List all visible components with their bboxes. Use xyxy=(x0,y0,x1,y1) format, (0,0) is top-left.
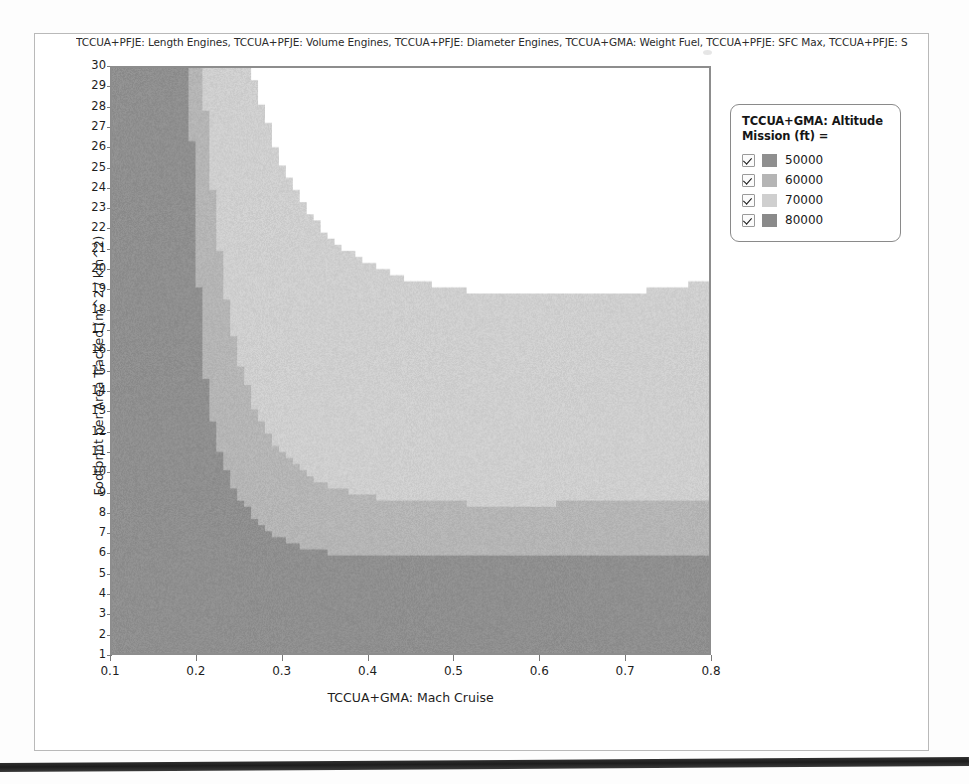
x-tick-mark xyxy=(196,655,197,661)
y-tick-label: 3 xyxy=(66,609,106,621)
legend-color-swatch xyxy=(762,174,777,187)
legend-panel[interactable]: TCCUA+GMA: Altitude Mission (ft) = 50000… xyxy=(730,104,901,242)
y-tick-label: 12 xyxy=(66,426,106,438)
y-tick-label: 11 xyxy=(66,446,106,458)
x-tick-mark xyxy=(711,655,712,661)
y-tick-label: 10 xyxy=(66,466,106,478)
y-tick-label: 25 xyxy=(66,162,106,174)
x-tick-label: 0.5 xyxy=(428,665,478,677)
y-tick-label: 7 xyxy=(66,527,106,539)
legend-item-label: 80000 xyxy=(785,214,823,226)
y-tick-label: 29 xyxy=(66,81,106,93)
y-tick-label: 21 xyxy=(66,243,106,255)
x-tick-mark xyxy=(282,655,283,661)
y-tick-label: 28 xyxy=(66,101,106,113)
chart-title: TCCUA+PFJE: Length Engines, TCCUA+PFJE: … xyxy=(76,36,928,51)
legend-color-swatch xyxy=(762,214,777,227)
scan-artifact-speck xyxy=(703,50,712,55)
y-tick-label: 17 xyxy=(66,324,106,336)
legend-item[interactable]: 80000 xyxy=(742,211,890,229)
legend-item[interactable]: 70000 xyxy=(742,191,890,209)
legend-checkbox-checked-icon[interactable] xyxy=(742,174,755,187)
legend-checkbox-checked-icon[interactable] xyxy=(742,214,755,227)
y-tick-label: 13 xyxy=(66,406,106,418)
x-tick-label: 0.1 xyxy=(85,665,135,677)
x-tick-mark xyxy=(539,655,540,661)
contour-plot-canvas xyxy=(112,68,709,653)
legend-item[interactable]: 50000 xyxy=(742,151,890,169)
x-axis-label: TCCUA+GMA: Mach Cruise xyxy=(110,690,711,705)
y-tick-label: 5 xyxy=(66,568,106,580)
x-tick-mark xyxy=(110,655,111,661)
legend-title: TCCUA+GMA: Altitude Mission (ft) = xyxy=(742,114,890,144)
y-tick-label: 23 xyxy=(66,202,106,214)
y-tick-label: 20 xyxy=(66,263,106,275)
y-tick-label: 9 xyxy=(66,487,106,499)
y-tick-label: 27 xyxy=(66,121,106,133)
legend-item[interactable]: 60000 xyxy=(742,171,890,189)
legend-color-swatch xyxy=(762,194,777,207)
plot-area[interactable] xyxy=(110,66,711,655)
y-tick-label: 6 xyxy=(66,548,106,560)
y-tick-label: 1 xyxy=(66,649,106,661)
x-tick-mark xyxy=(625,655,626,661)
scan-page-edge xyxy=(0,757,969,772)
x-tick-label: 0.8 xyxy=(686,665,736,677)
x-tick-label: 0.6 xyxy=(514,665,564,677)
legend-item-label: 70000 xyxy=(785,194,823,206)
y-tick-label: 16 xyxy=(66,345,106,357)
y-tick-label: 2 xyxy=(66,629,106,641)
legend-item-label: 50000 xyxy=(785,154,823,166)
y-tick-label: 30 xyxy=(66,60,106,72)
x-tick-label: 0.7 xyxy=(600,665,650,677)
y-tick-label: 22 xyxy=(66,223,106,235)
y-axis-ticks: 3029282726252423222120191817161514131211… xyxy=(62,66,106,655)
y-tick-label: 24 xyxy=(66,182,106,194)
scanned-page: TCCUA+PFJE: Length Engines, TCCUA+PFJE: … xyxy=(0,0,969,784)
y-tick-label: 26 xyxy=(66,141,106,153)
y-tick-label: 14 xyxy=(66,385,106,397)
legend-checkbox-checked-icon[interactable] xyxy=(742,194,755,207)
x-tick-label: 0.2 xyxy=(171,665,221,677)
x-tick-label: 0.4 xyxy=(343,665,393,677)
y-axis-label-wrapper: Footprint per Area Tracked (m^2 / km^2) xyxy=(44,66,64,655)
x-tick-label: 0.3 xyxy=(257,665,307,677)
y-tick-label: 19 xyxy=(66,284,106,296)
y-tick-label: 4 xyxy=(66,588,106,600)
y-tick-label: 8 xyxy=(66,507,106,519)
y-tick-label: 18 xyxy=(66,304,106,316)
x-tick-mark xyxy=(453,655,454,661)
y-tick-label: 15 xyxy=(66,365,106,377)
legend-items[interactable]: 50000600007000080000 xyxy=(742,151,890,229)
legend-item-label: 60000 xyxy=(785,174,823,186)
legend-checkbox-checked-icon[interactable] xyxy=(742,154,755,167)
legend-color-swatch xyxy=(762,154,777,167)
x-axis-ticks: 0.10.20.30.40.50.60.70.8 xyxy=(110,655,711,683)
x-tick-mark xyxy=(368,655,369,661)
